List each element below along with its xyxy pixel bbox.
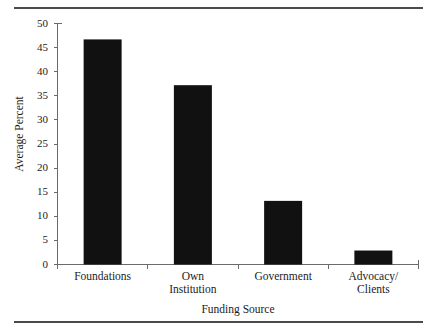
y-tick-label: 50 <box>14 18 48 29</box>
bar-chart-figure: 05101520253035404550 FoundationsOwn Inst… <box>0 0 437 334</box>
x-tick-label-4: Advocacy/ Clients <box>320 270 426 296</box>
y-tick-label: 10 <box>14 210 48 221</box>
y-axis-title: Average Percent <box>13 79 25 189</box>
bar-2 <box>174 85 212 264</box>
y-tick-label: 5 <box>14 234 48 245</box>
bar-1 <box>84 39 122 264</box>
x-axis-title: Funding Source <box>57 303 419 316</box>
bar-3 <box>264 201 302 265</box>
y-tick-label: 40 <box>14 66 48 77</box>
y-tick-label: 0 <box>14 259 48 270</box>
bar-4 <box>354 251 392 265</box>
y-tick-label: 45 <box>14 42 48 53</box>
